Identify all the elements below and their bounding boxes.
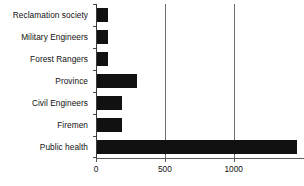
plot-area [96,4,304,158]
category-tick [93,70,96,71]
category-label: Military Engineers [21,33,88,42]
bar-fill [97,118,122,132]
category-label: Civil Engineers [32,99,88,108]
category-tick [93,26,96,27]
value-tick-mark-500 [165,158,166,162]
category-label-row: Public health [0,136,92,158]
category-label-row: Firemen [0,114,92,136]
category-tick [93,114,96,115]
value-axis: 05001000 [96,158,304,186]
value-tick-label-0: 0 [94,164,99,174]
value-tick-mark-1000 [234,158,235,162]
bar-fill [97,140,297,154]
category-label: Province [55,77,88,86]
category-tick [93,4,96,5]
category-label-row: Province [0,70,92,92]
bar-chart: Reclamation society Military Engineers F… [0,0,304,186]
category-label: Reclamation society [13,11,88,20]
bar [97,30,108,44]
bar-fill [97,30,108,44]
bar [97,140,297,154]
category-label: Public health [40,143,88,152]
value-tick-label-500: 500 [158,164,172,174]
bar [97,118,122,132]
gridline-1000 [234,4,235,158]
value-tick-label-1000: 1000 [225,164,243,174]
bar [97,96,122,110]
category-tick [93,92,96,93]
bar [97,74,137,88]
bar-fill [97,96,122,110]
category-label: Firemen [57,121,88,130]
category-label-row: Civil Engineers [0,92,92,114]
category-label: Forest Rangers [30,55,88,64]
category-label-row: Forest Rangers [0,48,92,70]
bar-fill [97,74,137,88]
bar [97,8,108,22]
category-tick [93,48,96,49]
bar-fill [97,8,108,22]
gridline-500 [165,4,166,158]
category-label-row: Reclamation society [0,4,92,26]
category-axis: Reclamation society Military Engineers F… [0,4,92,158]
bar [97,52,108,66]
category-label-row: Military Engineers [0,26,92,48]
bar-fill [97,52,108,66]
category-tick [93,136,96,137]
value-tick-mark-0 [96,158,97,162]
